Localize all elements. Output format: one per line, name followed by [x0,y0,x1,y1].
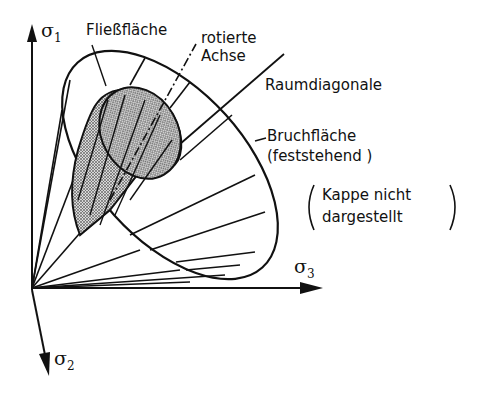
rotated-axis-label-2: Achse [201,48,246,65]
failure-surface-label-1: Bruchfläche [267,128,356,145]
sigma2-label: σ2 [54,350,75,375]
cap-note-left-paren [309,185,314,230]
sigma3-arrowhead-icon [300,282,323,294]
sigma3-label: σ3 [294,258,315,283]
cap-note-label-2: dargestellt [322,209,403,226]
cap-note-right-paren [450,185,455,230]
failure-surface-leader [255,138,266,141]
space-diagonal-label: Raumdiagonale [265,77,382,94]
sigma2-axis [32,290,46,360]
sigma2-arrowhead-icon [39,352,50,376]
sigma1-label: σ1 [41,22,62,47]
rotated-axis-label-1: rotierte [201,30,257,47]
cap-note-label-1: Kappe nicht [322,187,411,204]
failure-surface-label-2: (feststehend ) [267,148,372,165]
yield-surface-label: Fließfläche [86,22,167,39]
sigma1-arrowhead-icon [27,24,37,42]
